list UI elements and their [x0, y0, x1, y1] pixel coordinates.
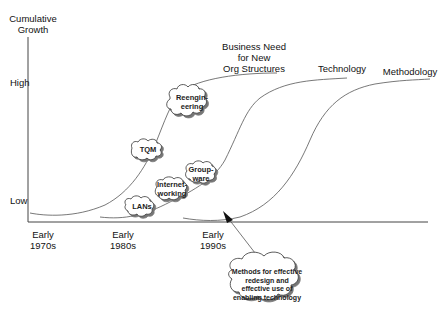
y-axis-low-label: Low	[10, 195, 27, 206]
label-business-need: Business Need for New Org Structures	[219, 41, 289, 74]
x-tick-1980s-line1: Early	[106, 229, 140, 240]
cloud-lans-text: LANs	[128, 202, 156, 211]
cloud-methods-text: Methods for effective redesign and effec…	[228, 268, 306, 302]
label-technology: Technology	[312, 63, 372, 74]
cloud-reengineering-line2: eering	[172, 102, 212, 111]
x-tick-1970s-line1: Early	[26, 229, 60, 240]
cloud-groupware-line2: ware	[186, 174, 216, 183]
y-axis-title-line1: Cumulative	[8, 13, 58, 24]
x-tick-1980s-line2: 1980s	[106, 240, 140, 251]
y-axis-title: Cumulative Growth	[8, 13, 58, 35]
cloud-internetworking-line2: working	[156, 189, 188, 198]
x-tick-1990s-line2: 1990s	[196, 240, 230, 251]
curve-methodology	[183, 79, 430, 221]
x-tick-1980s: Early 1980s	[106, 229, 140, 251]
arrowhead-icon	[223, 211, 233, 223]
x-tick-1990s-line1: Early	[196, 229, 230, 240]
cloud-internetworking-text: Internet- working	[156, 180, 188, 198]
cloud-methods-line1: Methods for effective	[228, 268, 306, 277]
y-axis-high-label: High	[10, 77, 30, 88]
cloud-methods-line2: redesign and	[228, 277, 306, 286]
cloud-methods-line4: enabling technology	[228, 294, 306, 303]
cloud-groupware-text: Group- ware	[186, 165, 216, 183]
cloud-internetworking-line1: Internet-	[156, 180, 188, 189]
label-business-need-line1: Business Need	[219, 41, 289, 52]
x-tick-1970s-line2: 1970s	[26, 240, 60, 251]
label-methodology: Methodology	[380, 66, 440, 77]
x-tick-1990s: Early 1990s	[196, 229, 230, 251]
label-business-need-line2: for New	[219, 52, 289, 63]
cloud-methods-line3: effective use of	[228, 285, 306, 294]
y-axis-title-line2: Growth	[8, 24, 58, 35]
cloud-reengineering-line1: Reengin-	[172, 93, 212, 102]
cloud-tqm-text: TQM	[133, 145, 163, 154]
cloud-reengineering-text: Reengin- eering	[172, 93, 212, 111]
x-tick-1970s: Early 1970s	[26, 229, 60, 251]
label-business-need-line3: Org Structures	[219, 63, 289, 74]
cloud-groupware-line1: Group-	[186, 165, 216, 174]
